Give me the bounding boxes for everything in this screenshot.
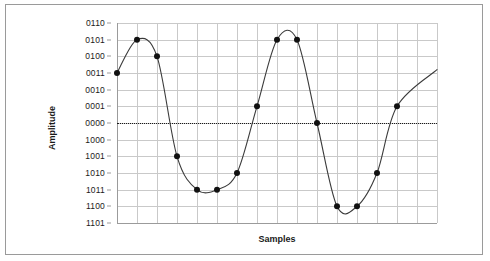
y-axis-tick-mark [107, 56, 111, 57]
x-axis-title: Samples [117, 234, 437, 244]
y-axis-tick-mark [107, 206, 111, 207]
data-point [374, 170, 380, 176]
plot-area [117, 23, 437, 223]
gridline-vertical [437, 23, 438, 223]
data-point [174, 153, 180, 159]
data-point [334, 203, 340, 209]
y-axis-tick-label: 0100 [85, 51, 105, 61]
y-axis-tick-mark [107, 123, 111, 124]
y-axis-tick-labels: 0110010101000011001000010000100010011010… [6, 23, 111, 223]
data-point [154, 53, 160, 59]
data-point [194, 187, 200, 193]
gridline-horizontal [117, 223, 437, 224]
y-axis-tick-label: 1100 [86, 201, 105, 211]
y-axis-tick-label: 0010 [85, 85, 105, 95]
y-axis-tick-mark [107, 139, 111, 140]
y-axis-tick-label: 0001 [85, 101, 105, 111]
y-axis-tick-label: 1101 [86, 218, 105, 228]
y-axis-tick-label: 0110 [86, 18, 105, 28]
y-axis-tick-mark [107, 89, 111, 90]
y-axis-tick-label: 1000 [85, 135, 105, 145]
y-axis-tick-label: 1001 [85, 151, 105, 161]
data-point [214, 187, 220, 193]
y-axis-tick-label: 0101 [85, 35, 105, 45]
data-point [254, 103, 260, 109]
curve-path [117, 30, 437, 214]
data-point [394, 103, 400, 109]
data-point [354, 203, 360, 209]
y-axis-tick-mark [107, 156, 111, 157]
data-point [234, 170, 240, 176]
y-axis-tick-label: 1010 [85, 168, 105, 178]
y-axis-tick-mark [107, 173, 111, 174]
data-point-markers [114, 37, 400, 210]
y-axis-tick-mark [107, 73, 111, 74]
y-axis-tick-mark [107, 39, 111, 40]
y-axis-tick-mark [107, 23, 111, 24]
y-axis-tick-label: 1011 [86, 185, 105, 195]
data-point [294, 37, 300, 43]
figure-frame: Amplitude Samples 0110010101000011001000… [5, 4, 483, 255]
data-point [274, 37, 280, 43]
waveform-curve [117, 23, 437, 223]
y-axis-tick-label: 0000 [85, 118, 105, 128]
y-axis-tick-mark [107, 223, 111, 224]
y-axis-tick-mark [107, 189, 111, 190]
y-axis-tick-mark [107, 106, 111, 107]
data-point [134, 37, 140, 43]
y-axis-tick-label: 0011 [86, 68, 105, 78]
data-point [114, 70, 120, 76]
data-point [314, 120, 320, 126]
